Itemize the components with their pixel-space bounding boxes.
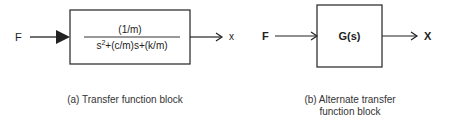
block-label: G(s) [317, 30, 382, 42]
denominator: s2+(c/m)s+(k/m) [84, 40, 180, 52]
output-label-a: x [229, 31, 234, 43]
denominator-rest: +(c/m)s+(k/m) [105, 40, 167, 51]
output-label-b: X [424, 30, 431, 42]
input-label-b: F [262, 30, 269, 42]
numerator: (1/m) [90, 24, 170, 36]
caption-b: (b) Alternate transferfunction block [290, 94, 410, 118]
caption-a: (a) Transfer function block [40, 94, 210, 106]
caption-b-line1: (b) Alternate transfer [290, 94, 410, 106]
input-label-a: F [15, 31, 22, 43]
caption-b-line2: function block [290, 106, 410, 118]
arrowhead-filled-icon [56, 30, 70, 44]
